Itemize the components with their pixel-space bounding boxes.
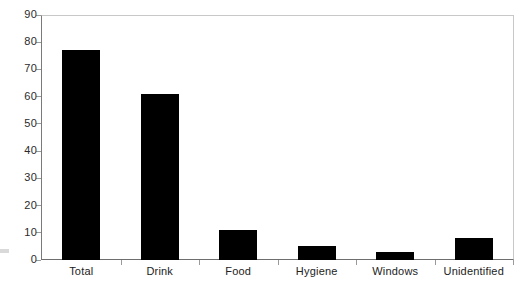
bar (141, 94, 179, 260)
y-axis-tick-label: 20 (0, 200, 37, 211)
x-axis-tick-label: Drink (121, 265, 200, 278)
x-axis-tick-label: Food (199, 265, 278, 278)
plot-area (41, 15, 514, 260)
bar (376, 252, 414, 260)
y-axis-tick-label: 10 (0, 227, 37, 238)
x-axis-tick-label: Unidentified (435, 265, 514, 278)
x-axis-tick-label: Windows (356, 265, 435, 278)
bar-chart: 0102030405060708090 TotalDrinkFoodHygien… (0, 0, 524, 284)
bar (298, 246, 336, 260)
y-axis-tick-label: 90 (0, 9, 37, 20)
y-axis-tick-label: 60 (0, 91, 37, 102)
x-axis-tick-label: Total (42, 265, 121, 278)
y-axis-tick-label: 50 (0, 118, 37, 129)
y-axis-tick-label: 70 (0, 63, 37, 74)
bar (219, 230, 257, 260)
y-axis-tick-label: 30 (0, 172, 37, 183)
y-axis-tick-label: 0 (0, 254, 37, 265)
x-axis-tick (513, 260, 514, 265)
y-axis-tick-label: 80 (0, 36, 37, 47)
y-axis-tick-label: 40 (0, 145, 37, 156)
bar (455, 238, 493, 260)
x-axis-tick-label: Hygiene (278, 265, 357, 278)
bar (62, 50, 100, 260)
image-edge-artifact (0, 249, 9, 253)
